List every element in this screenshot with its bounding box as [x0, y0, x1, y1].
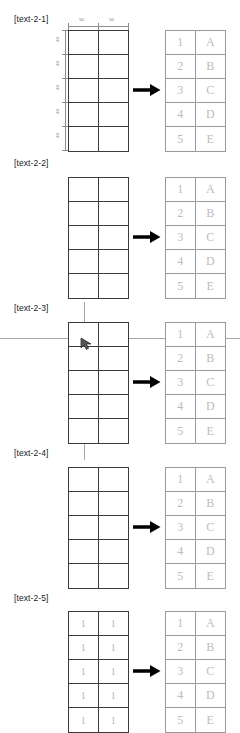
grid-cell[interactable] — [69, 178, 99, 201]
reference-cell-right: E — [196, 564, 226, 588]
grid-cell[interactable] — [99, 395, 129, 418]
grid-cell[interactable]: 1 — [99, 660, 129, 683]
grid-row — [69, 55, 128, 79]
grid-cell[interactable] — [99, 79, 129, 102]
grid-cell[interactable] — [99, 274, 129, 298]
grid-cell[interactable] — [69, 395, 99, 418]
grid-cell[interactable] — [69, 226, 99, 249]
grid-cell[interactable]: 1 — [99, 612, 129, 635]
table-row: 3C — [166, 371, 225, 395]
reference-cell-left: 2 — [166, 636, 196, 659]
reference-cell-left: 4 — [166, 684, 196, 707]
dimension-left-label: 40 — [55, 61, 60, 66]
table-row: 5E — [166, 419, 225, 443]
grid-cell[interactable] — [69, 564, 99, 588]
grid-row: 11 — [69, 612, 128, 636]
panel-label: [text-2-3] — [14, 303, 49, 313]
grid-cell[interactable] — [69, 492, 99, 515]
grid-cell[interactable] — [69, 103, 99, 126]
grid-row — [69, 371, 128, 395]
grid-cell[interactable] — [99, 226, 129, 249]
reference-cell-left: 3 — [166, 79, 196, 102]
editable-grid[interactable] — [68, 177, 129, 299]
editable-grid[interactable] — [68, 322, 129, 444]
grid-cell[interactable] — [99, 564, 129, 588]
grid-cell[interactable] — [99, 103, 129, 126]
reference-cell-left: 4 — [166, 540, 196, 563]
grid-cell[interactable] — [99, 347, 129, 370]
editable-grid[interactable]: 1111111111 — [68, 611, 129, 733]
table-row: 1A — [166, 31, 225, 55]
transform-arrow-icon — [133, 83, 161, 97]
dimension-left: 4040404040 — [56, 30, 68, 150]
grid-cell[interactable]: 1 — [99, 708, 129, 732]
grid-cell[interactable] — [99, 419, 129, 443]
table-row: 5E — [166, 708, 225, 732]
table-row: 1A — [166, 612, 225, 636]
grid-cell[interactable] — [99, 371, 129, 394]
grid-cell[interactable] — [69, 516, 99, 539]
grid-cell[interactable]: 1 — [69, 612, 99, 635]
grid-cell[interactable]: 1 — [69, 684, 99, 707]
grid-cell[interactable] — [69, 323, 99, 346]
grid-row — [69, 564, 128, 588]
grid-cell[interactable] — [99, 250, 129, 273]
grid-cell[interactable]: 1 — [99, 684, 129, 707]
editable-grid[interactable] — [68, 467, 129, 589]
reference-table: 1A2B3C4D5E — [165, 467, 226, 589]
grid-cell[interactable] — [99, 468, 129, 491]
grid-row — [69, 250, 128, 274]
reference-cell-left: 1 — [166, 612, 196, 635]
transform-arrow-icon — [133, 230, 161, 244]
grid-cell[interactable] — [69, 540, 99, 563]
grid-cell[interactable]: 1 — [69, 660, 99, 683]
grid-cell[interactable] — [69, 202, 99, 225]
table-row: 4D — [166, 540, 225, 564]
dimension-left-label: 40 — [55, 109, 60, 114]
reference-cell-right: E — [196, 708, 226, 732]
grid-cell[interactable] — [99, 540, 129, 563]
grid-cell[interactable] — [99, 178, 129, 201]
grid-cell[interactable] — [69, 371, 99, 394]
table-row: 1A — [166, 178, 225, 202]
reference-cell-left: 1 — [166, 178, 196, 201]
grid-cell[interactable] — [69, 79, 99, 102]
grid-cell[interactable] — [99, 516, 129, 539]
grid-cell[interactable]: 1 — [69, 708, 99, 732]
editable-grid[interactable] — [68, 30, 129, 152]
panel-label: [text-2-2] — [14, 158, 49, 168]
grid-cell[interactable] — [99, 55, 129, 78]
table-row: 4D — [166, 684, 225, 708]
reference-cell-left: 1 — [166, 468, 196, 491]
grid-cell[interactable]: 1 — [99, 636, 129, 659]
grid-cell[interactable] — [69, 127, 99, 151]
grid-cell[interactable] — [69, 468, 99, 491]
grid-cell[interactable] — [69, 347, 99, 370]
grid-row — [69, 103, 128, 127]
reference-cell-right: C — [196, 371, 226, 394]
grid-cell[interactable] — [99, 31, 129, 54]
panel-label: [text-2-1] — [14, 14, 49, 24]
grid-cell[interactable] — [69, 419, 99, 443]
grid-cell[interactable] — [69, 250, 99, 273]
panel-label: [text-2-4] — [14, 448, 49, 458]
grid-cell[interactable] — [69, 55, 99, 78]
grid-row — [69, 31, 128, 55]
reference-cell-left: 5 — [166, 274, 196, 298]
reference-cell-left: 3 — [166, 226, 196, 249]
grid-cell[interactable]: 1 — [69, 636, 99, 659]
grid-row — [69, 323, 128, 347]
grid-cell[interactable] — [99, 127, 129, 151]
table-row: 3C — [166, 226, 225, 250]
reference-cell-left: 2 — [166, 202, 196, 225]
grid-cell[interactable] — [69, 274, 99, 298]
dimension-top-label: 50 — [79, 17, 84, 22]
grid-cell[interactable] — [99, 492, 129, 515]
grid-cell[interactable] — [99, 323, 129, 346]
table-row: 2B — [166, 55, 225, 79]
reference-cell-right: D — [196, 684, 226, 707]
grid-cell[interactable] — [69, 31, 99, 54]
grid-row — [69, 395, 128, 419]
reference-cell-right: E — [196, 127, 226, 151]
grid-cell[interactable] — [99, 202, 129, 225]
